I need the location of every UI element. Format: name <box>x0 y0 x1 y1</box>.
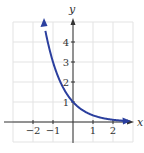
x-tick-label: −2 <box>26 125 41 136</box>
y-tick-label: 4 <box>63 37 69 48</box>
exponential-graph: −2−1121234 x y <box>0 0 144 153</box>
y-tick-label: 1 <box>63 97 69 108</box>
x-tick-label: −1 <box>46 125 61 136</box>
x-axis-label: x <box>137 116 144 129</box>
function-curve <box>41 18 132 125</box>
x-tick-label: 1 <box>90 125 96 136</box>
tick-labels: −2−1121234 <box>26 37 117 136</box>
y-axis-label: y <box>68 3 76 16</box>
x-tick-label: 2 <box>110 125 116 136</box>
y-tick-label: 3 <box>63 57 69 68</box>
